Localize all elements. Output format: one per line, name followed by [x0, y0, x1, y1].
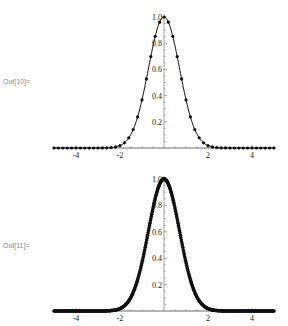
data-point	[83, 146, 86, 149]
plot-1: -4-2240.20.40.60.81.0	[52, 13, 275, 160]
data-point	[167, 21, 170, 24]
data-point	[96, 146, 99, 149]
x-tick-label: 2	[206, 314, 210, 323]
data-point	[149, 55, 152, 58]
y-tick-label: 0.6	[152, 65, 162, 74]
x-tick-label: -4	[73, 151, 80, 160]
data-point	[246, 146, 249, 149]
data-point	[162, 15, 165, 18]
y-tick-label: 0.4	[152, 92, 162, 101]
data-point	[211, 145, 214, 148]
data-point	[272, 309, 276, 313]
data-point	[233, 146, 236, 149]
data-point	[198, 136, 201, 139]
data-point	[215, 146, 218, 149]
data-point	[180, 77, 183, 80]
data-point	[176, 55, 179, 58]
data-point	[123, 141, 126, 144]
data-point	[264, 146, 267, 149]
data-point	[57, 146, 60, 149]
data-point	[228, 146, 231, 149]
data-point	[158, 21, 161, 24]
data-point	[118, 144, 121, 147]
data-point	[224, 146, 227, 149]
x-tick-label: 4	[250, 151, 254, 160]
x-tick-label: -2	[117, 151, 124, 160]
data-point	[110, 146, 113, 149]
y-tick-label: 0.2	[152, 118, 162, 127]
data-point	[202, 141, 205, 144]
data-point	[136, 115, 139, 118]
data-point	[132, 128, 135, 131]
data-point	[105, 146, 108, 149]
x-tick-label: -2	[117, 314, 124, 323]
data-point	[92, 146, 95, 149]
plots-canvas: -4-2240.20.40.60.81.0-4-2240.20.40.60.81…	[0, 0, 288, 326]
data-point	[61, 146, 64, 149]
x-tick-label: -4	[73, 314, 80, 323]
y-tick-label: 0.4	[152, 254, 162, 263]
data-point	[193, 128, 196, 131]
x-tick-label: 2	[206, 151, 210, 160]
data-point	[171, 35, 174, 38]
data-point	[79, 146, 82, 149]
data-point	[206, 144, 209, 147]
y-tick-label: 0.2	[152, 281, 162, 290]
data-point	[220, 146, 223, 149]
data-point	[268, 146, 271, 149]
data-point	[259, 146, 262, 149]
data-point	[242, 146, 245, 149]
data-point	[66, 146, 69, 149]
data-point	[140, 98, 143, 101]
data-point	[255, 146, 258, 149]
data-point	[145, 77, 148, 80]
data-point	[237, 146, 240, 149]
data-point	[154, 35, 157, 38]
data-point	[101, 146, 104, 149]
data-point	[184, 98, 187, 101]
data-point	[74, 146, 77, 149]
data-point	[250, 146, 253, 149]
data-point	[189, 115, 192, 118]
y-tick-label: 0.6	[152, 228, 162, 237]
data-point	[52, 146, 55, 149]
data-point	[114, 145, 117, 148]
x-tick-label: 4	[250, 314, 254, 323]
data-point	[127, 136, 130, 139]
data-point	[70, 146, 73, 149]
data-point	[88, 146, 91, 149]
data-point	[272, 146, 275, 149]
plot-2: -4-2240.20.40.60.81.0	[52, 175, 276, 323]
